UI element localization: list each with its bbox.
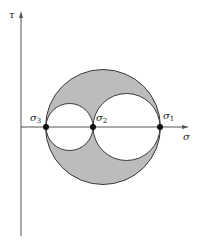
sigma1-point (157, 124, 163, 130)
sigma1-label: σ1 (163, 110, 174, 123)
sigma3-point (43, 124, 49, 130)
sigma-axis-label: σ (183, 131, 191, 142)
sigma1-subscript: 1 (170, 115, 174, 123)
tau-axis-label: τ (9, 9, 15, 20)
sigma3-subscript: 3 (37, 117, 41, 125)
sigma-axis-arrowhead-icon (182, 125, 189, 129)
sigma2-point (90, 124, 96, 130)
sigma3-label: σ3 (30, 112, 41, 125)
sigma2-subscript: 2 (103, 117, 107, 125)
tau-axis-arrowhead-icon (19, 11, 23, 18)
mohr-circle-diagram: τ σ σ3 σ2 σ1 (0, 0, 202, 251)
